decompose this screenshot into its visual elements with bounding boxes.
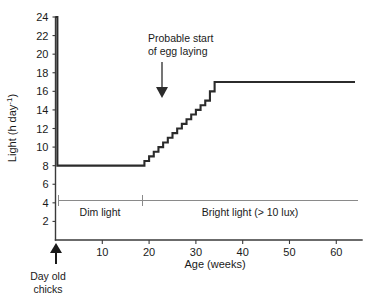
x-tick-label: 50 — [283, 246, 295, 258]
y-tick-label: 18 — [36, 67, 48, 79]
light-programme-chart: 24681012141618202224 Light (h day-1) 102… — [0, 0, 375, 301]
y-axis-group: 24681012141618202224 Light (h day-1) — [5, 11, 56, 240]
egg-laying-label-line2: of egg laying — [148, 45, 208, 57]
regime-label-dim-light: Dim light — [80, 206, 121, 218]
chart-container: 24681012141618202224 Light (h day-1) 102… — [0, 0, 375, 301]
day-old-chicks-label-line2: chicks — [33, 283, 62, 295]
y-axis-title: Light (h day-1) — [5, 94, 19, 162]
egg-laying-arrow-head — [156, 87, 168, 98]
x-tick-label: 60 — [330, 246, 342, 258]
y-tick-label: 12 — [36, 123, 48, 135]
x-tick-labels: 102030405060 — [96, 240, 342, 258]
egg-laying-annotation: Probable start of egg laying — [148, 32, 213, 98]
day-old-chicks-arrow-head — [50, 243, 62, 253]
day-old-chicks-annotation: Day old chicks — [30, 243, 66, 295]
x-axis-title: Age (weeks) — [184, 258, 245, 270]
egg-laying-label-line1: Probable start — [148, 32, 213, 44]
y-tick-label: 14 — [36, 104, 48, 116]
x-tick-label: 10 — [96, 246, 108, 258]
regime-label-bright-light: Bright light (> 10 lux) — [202, 206, 299, 218]
y-tick-label: 20 — [36, 48, 48, 60]
y-tick-label: 10 — [36, 141, 48, 153]
y-tick-label: 2 — [42, 215, 48, 227]
y-tick-label: 4 — [42, 197, 48, 209]
y-tick-label: 22 — [36, 30, 48, 42]
y-tick-labels: 24681012141618202224 — [36, 11, 55, 227]
y-tick-label: 16 — [36, 85, 48, 97]
x-axis-group: 102030405060 Age (weeks) — [56, 240, 363, 270]
day-old-chicks-label-line1: Day old — [30, 270, 66, 282]
y-tick-label: 24 — [36, 11, 48, 23]
y-tick-label: 6 — [42, 178, 48, 190]
y-tick-label: 8 — [42, 160, 48, 172]
x-tick-label: 40 — [237, 246, 249, 258]
x-tick-label: 20 — [143, 246, 155, 258]
x-tick-label: 30 — [190, 246, 202, 258]
regime-bracket-group: Dim light Bright light (> 10 lux) — [58, 195, 358, 218]
